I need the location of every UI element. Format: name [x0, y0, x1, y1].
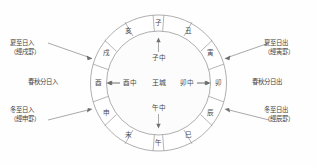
annotation-summer-solstice-sunrise: 夏至日出 （經寅罫）: [264, 39, 294, 57]
inner-mark-wu-zhong: 午中: [152, 103, 166, 112]
ring-branch-yin: 寅: [207, 48, 214, 57]
ring-branch-zi: 子: [155, 19, 162, 27]
annotation-line-1: 冬至日出: [264, 106, 288, 114]
annotation-line-2: （經寅罫）: [264, 48, 294, 57]
leader-winter-sunset: [48, 108, 93, 120]
leader-winter-sunrise: [225, 108, 270, 120]
ring-branch-chou: 丑: [185, 27, 192, 35]
annotation-equinox-sunset: 春秋分日入: [28, 78, 58, 87]
inner-mark-zi-zhong: 子中: [152, 53, 166, 62]
annotation-line-1: 夏至日入: [10, 39, 34, 47]
inner-mark-you-zhong: 酉中: [123, 78, 137, 87]
annotation-line-2: （經申罫）: [10, 115, 40, 124]
leader-summer-sunset: [48, 43, 93, 60]
annotation-line-2: （經戌罫）: [10, 48, 40, 57]
annotation-line-1: 冬至日入: [10, 106, 34, 114]
annotation-line-1: 春秋分日出: [252, 78, 282, 86]
ring-branch-si: 巳: [185, 131, 192, 139]
annotation-line-1: 春秋分日入: [28, 78, 58, 86]
ring-branch-mao: 卯: [215, 78, 222, 87]
ring-branch-wei: 未: [125, 130, 132, 139]
ring-branch-xu: 戌: [103, 48, 110, 57]
ring-branch-hai: 亥: [125, 26, 132, 35]
annotation-winter-solstice-sunrise: 冬至日出 （經辰罫）: [264, 106, 294, 124]
ring-branch-you: 酉: [95, 79, 102, 87]
annotation-line-1: 夏至日出: [264, 39, 288, 47]
ring-branch-shen: 申: [103, 108, 110, 117]
annotation-line-2: （經辰罫）: [264, 115, 294, 124]
annotation-winter-solstice-sunset: 冬至日入 （經申罫）: [10, 106, 40, 124]
figure-canvas: 子 丑 寅 卯 辰 巳 午 未 申 酉 戌 亥 子中 卯中 午中 酉中: [0, 0, 317, 166]
leader-summer-sunrise: [225, 43, 270, 60]
ring-branch-chen: 辰: [207, 109, 214, 117]
ring-branch-wu: 午: [155, 138, 162, 147]
center-royal-city-label: 王城: [152, 79, 166, 87]
annotation-equinox-sunrise: 春秋分日出: [252, 78, 282, 87]
annotation-summer-solstice-sunset: 夏至日入 （經戌罫）: [10, 39, 40, 57]
inner-mark-mao-zhong: 卯中: [180, 78, 194, 87]
